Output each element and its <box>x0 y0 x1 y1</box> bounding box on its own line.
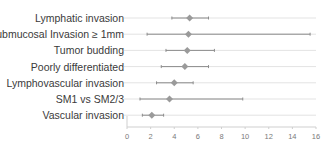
point-estimate-diamond-icon <box>184 47 191 54</box>
point-estimate-diamond-icon <box>166 96 173 103</box>
point-estimate-diamond-icon <box>171 79 178 86</box>
forest-plot: Lymphatic invasionSubmucosal Invasion ≥ … <box>0 0 327 155</box>
plot-area <box>0 0 327 155</box>
point-estimate-diamond-icon <box>181 63 188 70</box>
point-estimate-diamond-icon <box>186 15 193 22</box>
point-estimate-diamond-icon <box>148 112 155 119</box>
point-estimate-diamond-icon <box>185 31 192 38</box>
